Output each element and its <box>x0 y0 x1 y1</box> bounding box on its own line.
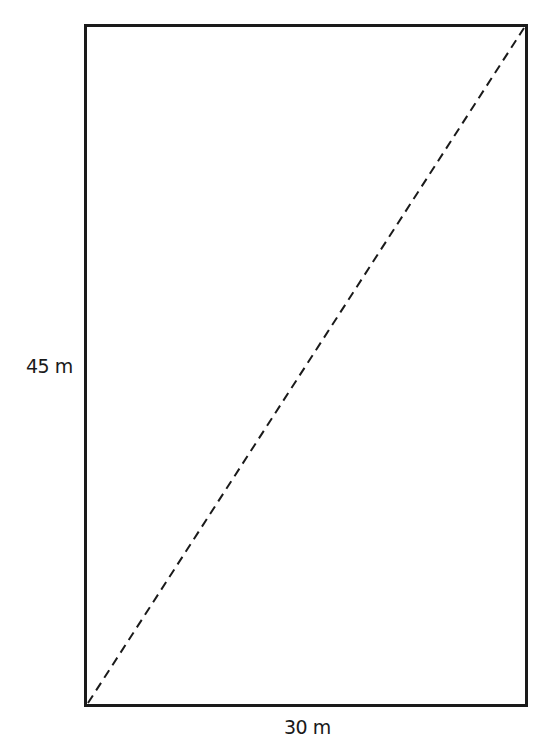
height-label: 45 m <box>26 355 73 377</box>
diagram: 45 m 30 m <box>0 0 551 755</box>
rectangle-outline <box>86 26 527 706</box>
rectangle-diagram <box>0 0 551 755</box>
width-label: 30 m <box>284 716 331 738</box>
diagonal-dashed-line <box>88 28 524 703</box>
